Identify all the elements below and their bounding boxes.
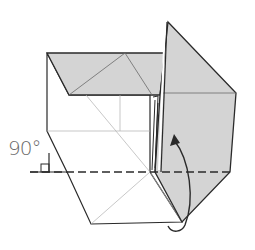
angle-label: 90°	[8, 138, 40, 158]
fold-illustration	[0, 0, 255, 250]
layer-edges	[152, 100, 155, 170]
right-angle-icon	[41, 153, 49, 172]
right-colored-flap	[155, 22, 236, 222]
